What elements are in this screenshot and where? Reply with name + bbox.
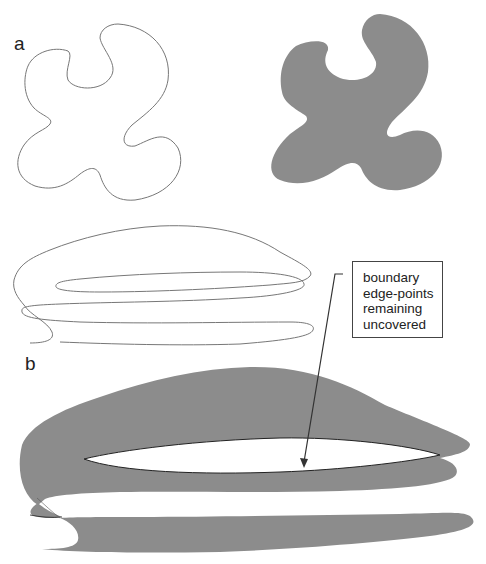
callout-line: uncovered bbox=[363, 317, 442, 333]
panel-label-b: b bbox=[25, 354, 36, 373]
filled-blob-shape bbox=[271, 14, 442, 190]
filled-spiral-lower-band bbox=[42, 513, 473, 553]
callout-line: edge-points bbox=[363, 286, 442, 302]
callout-box: boundary edge-points remaining uncovered bbox=[352, 261, 443, 338]
filled-spiral-upper-band bbox=[20, 367, 470, 505]
callout-line: boundary bbox=[363, 270, 442, 286]
outline-spiral-curve bbox=[14, 226, 314, 345]
outline-blob-shape bbox=[18, 24, 181, 200]
callout-line: remaining bbox=[363, 301, 442, 317]
panel-label-a: a bbox=[14, 34, 25, 53]
